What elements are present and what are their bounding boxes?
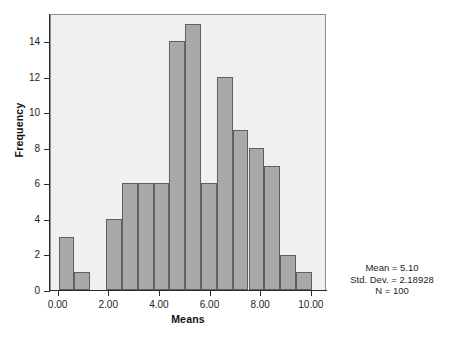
figure-caption xyxy=(14,341,444,349)
plot-area xyxy=(50,14,326,291)
y-tick-label: 2 xyxy=(14,250,40,260)
y-tick-mark xyxy=(44,149,50,150)
histogram-bar xyxy=(201,183,217,290)
y-tick-label: 4 xyxy=(14,215,40,225)
stat-n: N = 100 xyxy=(336,285,448,297)
y-axis-line xyxy=(49,14,50,291)
x-tick-mark xyxy=(260,291,261,296)
histogram-bar xyxy=(122,183,138,290)
x-tick-mark xyxy=(58,291,59,296)
y-tick-mark xyxy=(44,291,50,292)
histogram-bar xyxy=(185,24,201,290)
y-tick-mark xyxy=(44,113,50,114)
y-axis-title: Frequency xyxy=(13,75,25,185)
x-tick-label: 2.00 xyxy=(85,299,131,310)
x-tick-mark xyxy=(311,291,312,296)
histogram-bar xyxy=(59,237,75,290)
y-tick-mark xyxy=(44,220,50,221)
y-tick-mark xyxy=(44,78,50,79)
histogram-bar xyxy=(233,130,249,290)
histogram-bar xyxy=(264,166,280,290)
statistics-annotation: Mean = 5.10 Std. Dev. = 2.18928 N = 100 xyxy=(336,262,448,297)
histogram-bar xyxy=(154,183,170,290)
stat-mean: Mean = 5.10 xyxy=(336,262,448,274)
x-tick-label: 6.00 xyxy=(187,299,233,310)
histogram-bar xyxy=(138,183,154,290)
histogram-figure: 02468101214 0.002.004.006.008.0010.00 Fr… xyxy=(0,0,452,349)
y-tick-mark xyxy=(44,255,50,256)
y-tick-label: 0 xyxy=(14,286,40,296)
x-tick-mark xyxy=(159,291,160,296)
x-tick-label: 4.00 xyxy=(136,299,182,310)
stat-std-dev: Std. Dev. = 2.18928 xyxy=(336,274,448,286)
histogram-bar xyxy=(217,77,233,290)
x-axis-line xyxy=(49,290,327,291)
bars-layer xyxy=(51,15,325,290)
histogram-bar xyxy=(169,41,185,290)
x-tick-label: 10.00 xyxy=(288,299,334,310)
histogram-bar xyxy=(106,219,122,290)
y-tick-mark xyxy=(44,184,50,185)
x-tick-label: 0.00 xyxy=(35,299,81,310)
histogram-bar xyxy=(296,272,312,290)
x-tick-mark xyxy=(210,291,211,296)
y-tick-mark xyxy=(44,42,50,43)
x-axis-title: Means xyxy=(50,313,326,325)
histogram-bar xyxy=(74,272,90,290)
histogram-bar xyxy=(280,255,296,291)
y-tick-label: 14 xyxy=(14,37,40,47)
histogram-bar xyxy=(249,148,265,290)
x-tick-mark xyxy=(108,291,109,296)
x-tick-label: 8.00 xyxy=(237,299,283,310)
